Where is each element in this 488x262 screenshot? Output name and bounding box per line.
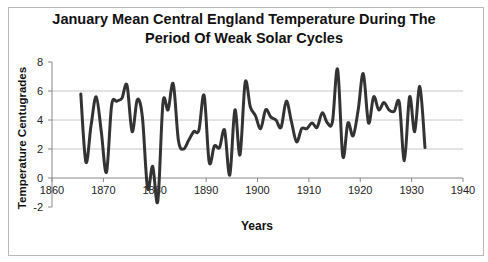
y-tick-label: 4 [37,114,43,126]
x-tick-label: 1900 [245,184,269,196]
y-tick-label: -2 [33,201,43,213]
x-tick-label: 1920 [348,184,372,196]
y-tick-label: 8 [37,56,43,68]
y-tick-label: 0 [37,172,43,184]
y-tick-label: 6 [37,85,43,97]
tick-labels: -202468186018701880189019001910192019301… [33,56,475,213]
x-tick-label: 1940 [451,184,475,196]
plot-area: -202468186018701880189019001910192019301… [0,0,488,262]
temperature-line [81,69,425,203]
x-tick-label: 1930 [399,184,423,196]
x-tick-label: 1910 [297,184,321,196]
x-tick-label: 1890 [194,184,218,196]
y-tick-label: 2 [37,143,43,155]
x-tick-label: 1870 [91,184,115,196]
x-tick-label: 1860 [40,184,64,196]
